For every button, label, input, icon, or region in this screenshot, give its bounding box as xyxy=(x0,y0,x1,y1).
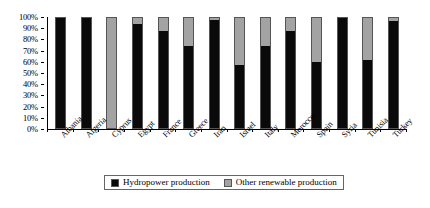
bar-segment-hydropower xyxy=(261,46,270,129)
y-tick-mark xyxy=(41,17,44,18)
plot-area: 0%10%20%30%40%50%60%70%80%90%100% Albani… xyxy=(0,0,430,140)
bar-slot xyxy=(253,17,279,129)
y-tick-label: 70% xyxy=(23,46,38,55)
bar-segment-hydropower xyxy=(286,31,295,128)
y-tick-label: 90% xyxy=(23,24,38,33)
bar-segment-other-renewable xyxy=(184,18,193,46)
stacked-bar[interactable] xyxy=(260,17,271,129)
bar-slot xyxy=(329,17,355,129)
stacked-bar[interactable] xyxy=(106,17,117,129)
bar-segment-hydropower xyxy=(338,18,347,128)
stacked-bar-chart: 0%10%20%30%40%50%60%70%80%90%100% Albani… xyxy=(0,0,430,208)
stacked-bar[interactable] xyxy=(285,17,296,129)
bar-slot xyxy=(278,17,304,129)
legend-label: Other renewable production xyxy=(236,178,337,187)
bar-segment-hydropower xyxy=(82,18,91,128)
y-tick-label: 20% xyxy=(23,102,38,111)
legend-entry[interactable]: Hydropower production xyxy=(111,178,210,187)
x-axis-labels: AlbaniaAlgeriaCyprusEgyptFranceGreeceIra… xyxy=(48,133,406,173)
bar-segment-hydropower xyxy=(363,60,372,128)
stacked-bar[interactable] xyxy=(337,17,348,129)
chart-legend: Hydropower productionOther renewable pro… xyxy=(104,175,344,190)
bar-segment-other-renewable xyxy=(107,18,116,128)
bar-slot xyxy=(227,17,253,129)
bar-slot xyxy=(201,17,227,129)
bar-slot xyxy=(381,17,407,129)
x-tick-mark xyxy=(47,129,48,132)
bar-slot xyxy=(125,17,151,129)
y-tick-label: 30% xyxy=(23,91,38,100)
bar-segment-hydropower xyxy=(210,20,219,128)
y-tick-mark xyxy=(41,51,44,52)
bar-segment-hydropower xyxy=(133,24,142,129)
y-tick-label: 80% xyxy=(23,35,38,44)
y-tick-mark xyxy=(41,95,44,96)
legend-swatch-hydro-icon xyxy=(111,179,119,187)
bar-slot xyxy=(150,17,176,129)
stacked-bar[interactable] xyxy=(388,17,399,129)
stacked-bar[interactable] xyxy=(158,17,169,129)
legend-label: Hydropower production xyxy=(123,178,210,187)
y-tick-mark xyxy=(41,73,44,74)
bar-segment-other-renewable xyxy=(312,18,321,62)
y-tick-mark xyxy=(41,39,44,40)
bar-segment-hydropower xyxy=(389,21,398,128)
stacked-bar[interactable] xyxy=(209,17,220,129)
bar-segment-other-renewable xyxy=(261,18,270,46)
stacked-bar[interactable] xyxy=(362,17,373,129)
bar-slot xyxy=(74,17,100,129)
bar-segment-hydropower xyxy=(159,31,168,128)
stacked-bar[interactable] xyxy=(132,17,143,129)
y-tick-label: 10% xyxy=(23,114,38,123)
bar-series-container xyxy=(48,17,406,129)
y-tick-mark xyxy=(41,84,44,85)
bar-segment-other-renewable xyxy=(363,18,372,60)
y-tick-mark xyxy=(41,28,44,29)
stacked-bar[interactable] xyxy=(81,17,92,129)
y-tick-label: 60% xyxy=(23,58,38,67)
bar-slot xyxy=(48,17,74,129)
bar-segment-hydropower xyxy=(56,18,65,128)
stacked-bar[interactable] xyxy=(183,17,194,129)
bar-segment-other-renewable xyxy=(159,18,168,31)
y-tick-mark xyxy=(41,107,44,108)
bar-segment-other-renewable xyxy=(286,18,295,31)
legend-entry[interactable]: Other renewable production xyxy=(224,178,337,187)
bar-segment-other-renewable xyxy=(235,18,244,65)
y-tick-mark xyxy=(41,129,44,130)
bar-segment-hydropower xyxy=(235,65,244,128)
bar-slot xyxy=(99,17,125,129)
y-tick-mark xyxy=(41,62,44,63)
bar-slot xyxy=(355,17,381,129)
y-tick-label: 0% xyxy=(27,125,38,134)
y-tick-label: 40% xyxy=(23,80,38,89)
stacked-bar[interactable] xyxy=(55,17,66,129)
y-axis: 0%10%20%30%40%50%60%70%80%90%100% xyxy=(0,11,44,129)
bar-slot xyxy=(176,17,202,129)
bar-segment-hydropower xyxy=(184,46,193,129)
y-tick-mark xyxy=(41,118,44,119)
stacked-bar[interactable] xyxy=(311,17,322,129)
stacked-bar[interactable] xyxy=(234,17,245,129)
y-tick-label: 100% xyxy=(19,13,38,22)
legend-swatch-other-icon xyxy=(224,179,232,187)
y-tick-label: 50% xyxy=(23,69,38,78)
